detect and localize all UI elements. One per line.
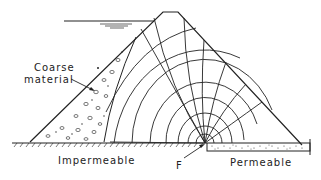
- equipotential-lines: [110, 18, 262, 143]
- coarse-material-leader: [71, 79, 93, 90]
- permeable-filter-strip: [207, 143, 310, 151]
- coarse-material-label-line1: Coarse: [34, 63, 75, 73]
- impermeable-label: Impermeable: [58, 156, 135, 166]
- focus-leader: [184, 146, 202, 158]
- coarse-material-arrowhead: [89, 87, 95, 91]
- coarse-material-label-line2: material: [24, 75, 74, 85]
- earth-dam-flow-net-diagram: Coarse material Impermeable Permeable F: [0, 0, 321, 180]
- dam-cross-section: [0, 0, 321, 180]
- filter-stipple: [211, 145, 302, 150]
- focus-label: F: [176, 161, 183, 171]
- coarse-zone-boundary: [104, 37, 136, 142]
- impermeable-hatching: [14, 143, 203, 147]
- permeable-label: Permeable: [230, 158, 292, 168]
